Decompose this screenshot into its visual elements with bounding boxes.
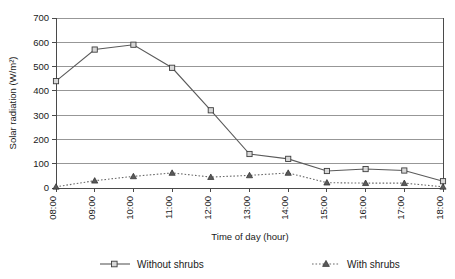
y-tick-label-100: 100 [33,158,49,169]
x-tick-label-18:00: 18:00 [434,196,445,220]
x-tick-label-14:00: 14:00 [279,196,290,220]
y-tick-label-0: 0 [44,182,49,193]
y-tick-label-300: 300 [33,110,49,121]
x-tick-label-11:00: 11:00 [163,196,174,219]
data-point-without-shrubs-09:00 [92,47,97,52]
y-axis-title: Solar radiation (W/m²) [7,57,18,150]
y-tick-label-400: 400 [33,85,49,96]
x-tick-label-08:00: 08:00 [47,196,58,220]
x-tick-label-16:00: 16:00 [357,196,368,220]
data-point-without-shrubs-12:00 [208,108,213,113]
x-tick-label-15:00: 15:00 [318,196,329,220]
data-point-without-shrubs-14:00 [286,156,291,161]
x-tick-label-10:00: 10:00 [124,196,135,220]
y-tick-label-700: 700 [33,12,49,23]
x-tick-label-13:00: 13:00 [241,196,252,220]
y-tick-label-600: 600 [33,37,49,48]
chart-canvas: 0100200300400500600700 08:0009:0010:0011… [0,0,455,279]
data-point-without-shrubs-10:00 [131,42,136,47]
data-point-without-shrubs-16:00 [363,166,368,171]
data-point-without-shrubs-17:00 [402,168,407,173]
y-tick-label-200: 200 [33,134,49,145]
legend-label-with-shrubs: With shrubs [347,259,400,270]
legend-label-without-shrubs: Without shrubs [137,259,204,270]
solar-radiation-line-chart: 0100200300400500600700 08:0009:0010:0011… [0,0,455,279]
data-point-without-shrubs-13:00 [247,151,252,156]
x-tick-label-09:00: 09:00 [86,196,97,220]
legend-marker-square [112,261,118,267]
x-axis-title: Time of day (hour) [211,231,288,242]
data-point-without-shrubs-08:00 [53,79,58,84]
x-tick-label-12:00: 12:00 [202,196,213,220]
data-point-without-shrubs-11:00 [170,65,175,70]
data-point-without-shrubs-15:00 [324,168,329,173]
y-tick-label-500: 500 [33,61,49,72]
x-tick-label-17:00: 17:00 [395,196,406,220]
